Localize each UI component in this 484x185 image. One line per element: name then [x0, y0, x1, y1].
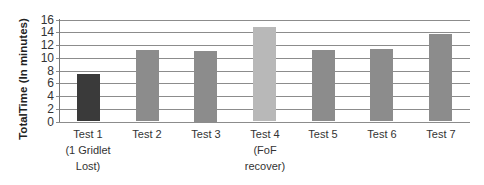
- x-tick-label-line: Test 7: [406, 127, 476, 141]
- y-tick-label: 4: [32, 90, 54, 102]
- y-tick-label: 14: [32, 26, 54, 38]
- y-axis-line: [59, 19, 60, 122]
- bar-1: [77, 74, 100, 121]
- y-tick-label: 16: [32, 14, 54, 26]
- y-tick-label: 8: [32, 65, 54, 77]
- bar-7: [429, 34, 452, 121]
- gridline: [56, 20, 470, 21]
- bar-4: [253, 27, 276, 121]
- y-tick-label: 12: [32, 39, 54, 51]
- x-tick-label: Test 7: [406, 127, 476, 141]
- y-tick-label: 2: [32, 103, 54, 115]
- x-tick-label-line: recover): [230, 159, 300, 173]
- x-tick-label-line: (1 Gridlet: [53, 143, 123, 157]
- y-tick-label: 10: [32, 52, 54, 64]
- x-tick-label-line: (FoF: [230, 143, 300, 157]
- gridline: [56, 122, 470, 123]
- bar-3: [194, 51, 217, 122]
- x-tick-label-line: Lost): [53, 159, 123, 173]
- bar-6: [370, 49, 393, 121]
- bar-2: [136, 50, 159, 121]
- y-axis-label: TotalTime (In minutes): [17, 14, 31, 144]
- bar-5: [312, 50, 335, 121]
- y-tick-label: 6: [32, 77, 54, 89]
- y-tick-label: 0: [32, 116, 54, 128]
- bar-chart: TotalTime (In minutes) 0246810121416 Tes…: [0, 0, 484, 185]
